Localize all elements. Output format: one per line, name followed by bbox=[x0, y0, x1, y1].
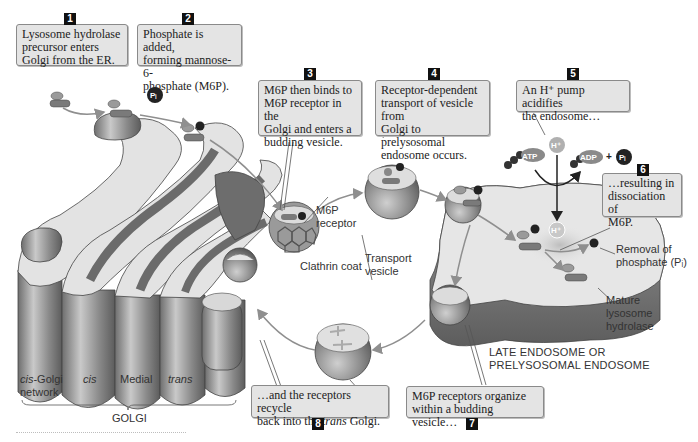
callout-step-3-text: M6P then binds to M6P receptor in the Go… bbox=[264, 84, 356, 149]
callout-step-2-text: Phosphate is added, forming mannose-6- p… bbox=[143, 28, 236, 93]
step-badge-7: 7 bbox=[466, 418, 478, 430]
callout-step-5-text: An H⁺ pump acidifies the endosome… bbox=[522, 84, 624, 123]
callout-step-1: Lysosome hydrolase precursor enters Golg… bbox=[16, 24, 128, 66]
proton-label-inside: H⁺ bbox=[551, 224, 561, 237]
label-mature-lysosome-hydrolase: Mature lysosome hydrolase bbox=[606, 294, 654, 333]
callout-step-5: An H⁺ pump acidifies the endosome… bbox=[516, 80, 630, 112]
callout-step-4: Receptor-dependent transport of vesicle … bbox=[375, 80, 490, 136]
step-badge-8: 8 bbox=[312, 418, 324, 430]
label-m6p-receptor: M6P receptor bbox=[316, 204, 356, 230]
step-badge-6: 6 bbox=[637, 164, 649, 176]
callout-step-7: M6P receptors organize within a budding … bbox=[406, 386, 544, 418]
step-badge-1: 1 bbox=[64, 13, 76, 25]
label-removal-of-phosphate: Removal of phosphate (Pᵢ) bbox=[616, 243, 687, 269]
callout-step-1-text: Lysosome hydrolase precursor enters Golg… bbox=[22, 28, 122, 67]
callout-step-8: …and the receptors recycle back into the… bbox=[251, 385, 389, 418]
callout-step-6-text: …resulting in dissociation of M6P. bbox=[608, 177, 676, 229]
step-badge-3: 3 bbox=[304, 68, 316, 80]
adp-label: ADP bbox=[580, 151, 597, 164]
callout-step-6: …resulting in dissociation of M6P. bbox=[602, 173, 682, 217]
transport-vesicle-upper bbox=[365, 163, 419, 219]
m6p-lysosome-targeting-diagram: Lysosome hydrolase precursor enters Golg… bbox=[0, 0, 698, 442]
plus-sign: + bbox=[606, 150, 612, 163]
recycling-vesicle bbox=[315, 324, 371, 380]
label-golgi: GOLGI bbox=[112, 412, 147, 425]
clathrin-coated-vesicle bbox=[269, 202, 319, 252]
label-clathrin-coat: Clathrin coat bbox=[300, 260, 362, 273]
label-late-endosome: LATE ENDOSOME OR PRELYSOSOMAL ENDOSOME bbox=[489, 346, 650, 372]
step-badge-5: 5 bbox=[567, 68, 579, 80]
atp-label: ATP bbox=[522, 150, 537, 163]
figure-caption-faint bbox=[16, 432, 186, 435]
label-transport-vesicle: Transport vesicle bbox=[365, 252, 412, 278]
callout-step-3: M6P then binds to M6P receptor in the Go… bbox=[258, 80, 362, 136]
proton-label-outside: H⁺ bbox=[551, 139, 561, 152]
label-trans: trans bbox=[168, 373, 192, 386]
label-medial: Medial bbox=[120, 373, 152, 386]
callout-step-2: Phosphate is added, forming mannose-6- p… bbox=[137, 24, 242, 66]
pi-label-top: Pᵢ bbox=[150, 89, 156, 102]
step-badge-4: 4 bbox=[428, 68, 440, 80]
callout-step-4-text: Receptor-dependent transport of vesicle … bbox=[381, 84, 484, 162]
label-cis-golgi-network: cis-Golgi network bbox=[20, 373, 63, 399]
step-badge-2: 2 bbox=[182, 13, 194, 25]
golgi-stack bbox=[18, 112, 282, 409]
label-cis: cis bbox=[83, 373, 96, 386]
pi-label-right: Pᵢ bbox=[619, 151, 625, 164]
